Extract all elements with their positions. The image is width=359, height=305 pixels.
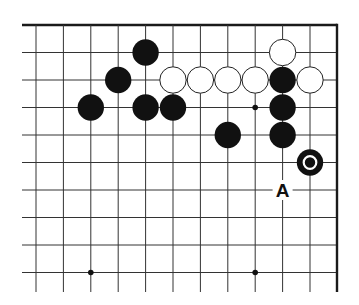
hoshi-point [252,270,258,276]
position-labels: A [273,180,293,201]
white-stone [242,67,268,93]
go-board: A [0,0,359,305]
black-stone [132,94,158,120]
white-stone [269,39,295,65]
hoshi-point [252,105,258,111]
white-stone [187,67,213,93]
black-stone [132,39,158,65]
label-text: A [276,180,290,201]
hoshi-point [88,270,94,276]
black-stone [105,67,131,93]
black-stone [269,122,295,148]
board-label: A [273,180,293,201]
black-stone [160,94,186,120]
white-stone [297,67,323,93]
black-stone-marked [297,149,323,175]
black-stone [78,94,104,120]
black-stone [269,67,295,93]
black-stone [215,122,241,148]
black-stone [269,94,295,120]
white-stone [160,67,186,93]
white-stone [215,67,241,93]
go-board-diagram: A [0,0,359,305]
